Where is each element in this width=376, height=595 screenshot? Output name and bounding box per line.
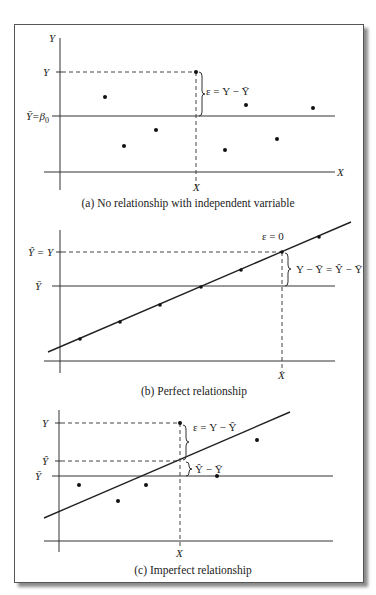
regression-line — [44, 412, 290, 518]
x-axis-label: X — [336, 166, 345, 178]
explained-annotation: Ŷ − Ȳ — [195, 463, 223, 475]
error-annotation: ε = Y − Ȳ — [206, 85, 250, 97]
epsilon-zero-label: ε = 0 — [262, 230, 284, 242]
error-annotation: ε = Y − Ŷ — [193, 421, 237, 433]
yhat-tick-label: Ŷ — [42, 455, 50, 467]
y-tick-label: Y — [42, 417, 50, 429]
panel-b: Ŷ = Y Ȳ X ε = 0 Y − Ȳ = Ŷ − Ȳ (b) Perfec… — [28, 222, 363, 398]
caption-c: (c) Imperfect relationship — [134, 564, 252, 577]
y-axis-label: Y — [49, 32, 57, 44]
explained-brace — [285, 253, 291, 286]
error-brace — [183, 425, 189, 460]
x-tick-label: X — [192, 181, 201, 193]
explained-annotation: Y − Ȳ = Ŷ − Ȳ — [296, 263, 363, 275]
data-points — [103, 70, 315, 152]
x-tick-label: X — [277, 369, 286, 381]
panel-c: Y Ŷ Ȳ X ε = Y − Ŷ Ŷ − Ȳ (c) Imperfect re… — [35, 410, 333, 577]
x-tick-label: X — [175, 547, 184, 559]
regression-diagram: Y X Y Ȳ=β0 X ε = Y − Ȳ (a) No relationsh… — [0, 0, 376, 595]
y-tick-label: Y — [43, 66, 51, 78]
yhat-equals-y-label: Ŷ = Y — [28, 246, 55, 258]
panel-a: Y X Y Ȳ=β0 X ε = Y − Ȳ (a) No relationsh… — [26, 32, 345, 210]
ybar-label: Ȳ — [35, 470, 43, 482]
data-points — [77, 421, 259, 503]
explained-brace — [186, 462, 192, 476]
ybar-label: Ȳ=β0 — [26, 110, 49, 125]
caption-b: (b) Perfect relationship — [141, 385, 247, 398]
error-brace — [199, 72, 205, 116]
caption-a: (a) No relationship with independent var… — [82, 197, 295, 210]
ybar-label: Ȳ — [35, 280, 43, 292]
